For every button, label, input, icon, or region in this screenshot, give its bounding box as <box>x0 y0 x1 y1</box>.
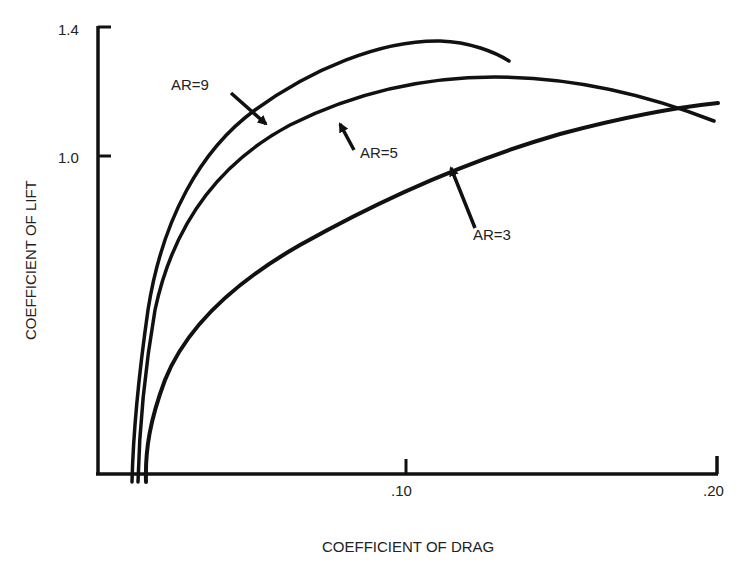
x-tick-label-0.10: .10 <box>391 482 412 499</box>
label-ar9: AR=9 <box>171 76 209 93</box>
y-tick-label-1.4: 1.4 <box>58 21 79 38</box>
y-tick-label-1.0: 1.0 <box>58 149 79 166</box>
x-tick-label-0.20: .20 <box>703 482 724 499</box>
label-ar5: AR=5 <box>360 144 398 161</box>
curve-ar9 <box>132 41 509 482</box>
y-axis-title: COEFFICIENT OF LIFT <box>22 180 39 340</box>
series-curves <box>132 41 718 482</box>
arrow-ar3 <box>451 168 475 228</box>
arrow-ar9 <box>231 93 266 124</box>
x-axis-title: COEFFICIENT OF DRAG <box>322 538 494 555</box>
label-ar3: AR=3 <box>473 226 511 243</box>
lift-drag-chart: 1.4 1.0 .10 .20 COEFFICIENT OF DRAG COEF… <box>0 0 748 575</box>
annotations: AR=9 AR=5 AR=3 <box>171 76 511 243</box>
curve-ar3 <box>146 103 718 482</box>
arrow-ar5 <box>340 124 354 150</box>
